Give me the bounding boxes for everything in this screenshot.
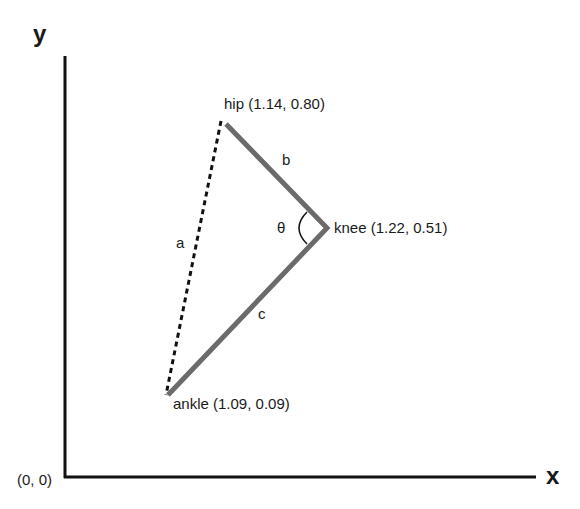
- ankle-label: ankle (1.09, 0.09): [173, 396, 290, 411]
- segment-a-label: a: [176, 235, 184, 250]
- hip-label: hip (1.14, 0.80): [224, 96, 325, 111]
- x-axis-label: x: [546, 464, 559, 488]
- y-axis-label: y: [33, 22, 46, 46]
- knee-label: knee (1.22, 0.51): [334, 220, 447, 235]
- angle-arc: [299, 212, 307, 244]
- diagram-canvas: [0, 0, 580, 509]
- angle-theta-label: θ: [277, 220, 285, 235]
- segment-c-label: c: [258, 306, 266, 321]
- segment-a-dashed: [166, 121, 221, 395]
- segments-b-c: [168, 124, 327, 395]
- origin-label: (0, 0): [17, 472, 52, 487]
- segment-b-label: b: [282, 152, 290, 167]
